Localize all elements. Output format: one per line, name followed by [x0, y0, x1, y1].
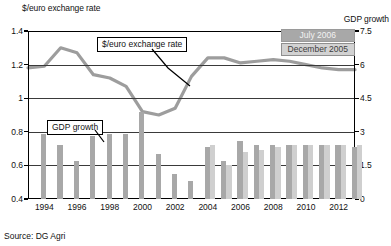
bar: [319, 145, 324, 199]
bar: [335, 145, 340, 199]
bar: [259, 150, 264, 199]
x-axis-tick-label: 2002: [166, 202, 185, 212]
legend-item-december-2005[interactable]: December 2005: [281, 43, 355, 56]
bar: [90, 136, 95, 199]
gridline: [28, 65, 355, 66]
right-axis-title: GDP growth: [344, 14, 389, 24]
bar: [270, 145, 275, 199]
x-axis-tick-label: 2004: [198, 202, 217, 212]
bar: [303, 145, 308, 199]
right-axis-tick: [355, 30, 359, 31]
x-axis-tick-label: 2010: [296, 202, 315, 212]
bar: [221, 161, 226, 199]
legend-item-july-2006[interactable]: July 2006: [281, 29, 355, 42]
bar: [341, 145, 346, 199]
right-axis-tick-label: 3: [360, 127, 365, 137]
right-axis-tick-label: 7.5: [360, 26, 372, 36]
bar: [156, 154, 161, 199]
left-axis-tick-label: 1: [18, 93, 23, 103]
bar: [188, 181, 193, 199]
callout-exchange-rate: $/euro exchange rate: [97, 37, 187, 52]
gridline: [28, 98, 355, 99]
right-axis-tick-label: 6: [360, 60, 365, 70]
bar: [210, 145, 215, 199]
chart-container: $/euro exchange rate GDP growth 0.40.60.…: [0, 0, 391, 246]
x-axis-tick-label: 2006: [231, 202, 250, 212]
left-axis-line: [28, 31, 29, 199]
bar: [324, 145, 329, 199]
bar: [172, 174, 177, 199]
x-axis-tick-label: 2008: [264, 202, 283, 212]
x-axis-labels: 1994199619982000200220042006200820102012: [28, 202, 355, 216]
bar: [352, 147, 357, 199]
bar: [139, 112, 144, 199]
bar: [308, 145, 313, 199]
bar: [357, 145, 362, 199]
bar: [286, 145, 291, 199]
left-axis-tick-label: 0.4: [11, 194, 23, 204]
bar: [243, 152, 248, 199]
legend: July 2006 December 2005: [281, 29, 355, 56]
bar: [57, 145, 62, 199]
left-axis-tick-label: 0.6: [11, 160, 23, 170]
right-axis-tick: [355, 64, 359, 65]
bar: [41, 134, 46, 199]
x-axis-tick-label: 2012: [329, 202, 348, 212]
x-axis-tick-label: 1994: [35, 202, 54, 212]
right-axis-tick: [355, 98, 359, 99]
bar: [292, 145, 297, 199]
left-axis-tick-label: 1.4: [11, 26, 23, 36]
right-axis-tick-label: 4.5: [360, 93, 372, 103]
exchange-rate-polyline: [28, 48, 355, 115]
x-axis-tick-label: 2000: [133, 202, 152, 212]
left-axis-title: $/euro exchange rate: [22, 3, 100, 13]
bar: [254, 145, 259, 199]
bar: [226, 165, 231, 199]
bar: [74, 161, 79, 199]
x-axis-tick-label: 1998: [100, 202, 119, 212]
bar: [107, 134, 112, 199]
bar: [275, 147, 280, 199]
plot-area: 0.40.60.811.21.401.534.567.5: [28, 31, 355, 199]
left-axis-tick-label: 1.2: [11, 60, 23, 70]
bar: [237, 141, 242, 199]
bar: [205, 147, 210, 199]
left-axis-tick-label: 0.8: [11, 127, 23, 137]
source-note: Source: DG Agri: [4, 231, 65, 241]
bar: [123, 134, 128, 199]
callout-gdp-growth: GDP growth: [47, 120, 103, 135]
right-axis-tick: [355, 131, 359, 132]
x-axis-tick-label: 1996: [68, 202, 87, 212]
